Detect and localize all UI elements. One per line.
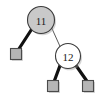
edge-node12-to-nil-right xyxy=(76,66,87,81)
nil-leaf-square xyxy=(48,81,59,92)
node-circle-red xyxy=(56,44,81,69)
nil-leaf-group xyxy=(11,49,95,93)
nil-leaf-left-of-node11 xyxy=(11,49,23,61)
edge-node12-to-nil-left xyxy=(55,66,61,81)
edge-node11-to-nil-left xyxy=(19,30,32,50)
red-black-tree-diagram: 11 12 xyxy=(0,0,102,98)
nil-leaf-right-of-node12 xyxy=(83,81,95,93)
nil-leaf-left-of-node12 xyxy=(48,81,60,93)
tree-canvas: 11 12 xyxy=(0,0,102,98)
internal-node-group: 11 12 xyxy=(28,7,83,71)
nil-leaf-square xyxy=(83,81,94,92)
nil-leaf-square xyxy=(11,49,22,60)
node-circle-black xyxy=(28,7,55,34)
